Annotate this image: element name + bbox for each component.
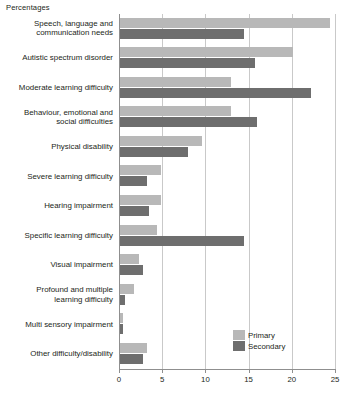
bar-primary [120,284,134,294]
bar-primary [120,136,202,146]
bar-group [119,225,335,247]
bar-secondary [120,265,143,275]
bar-group [119,343,335,365]
category-label-line: Profound and multiple [2,285,113,295]
bar-group [119,254,335,276]
gridline [335,14,336,369]
category-label: Speech, language andcommunication needs [2,19,113,38]
bar-secondary [120,29,244,39]
x-axis-tick-label: 20 [287,375,296,384]
plot-area: 0510152025 [119,14,335,369]
x-axis-tick-label: 0 [117,375,121,384]
bar-secondary [120,324,123,334]
x-axis-tick-label: 5 [160,375,164,384]
percentages-note: Percentages [6,3,50,12]
bar-secondary [120,206,149,216]
category-label-line: Speech, language and [2,19,113,29]
x-axis-line [119,369,335,370]
bar-secondary [120,147,188,157]
category-label: Physical disability [2,142,113,152]
category-label-line: social difficulties [2,117,113,127]
category-label-line: Autistic spectrum disorder [2,53,113,63]
category-label: Specific learning difficulty [2,231,113,241]
bar-secondary [120,117,257,127]
bar-group [119,195,335,217]
category-label-line: Moderate learning difficulty [2,83,113,93]
bar-group [119,165,335,187]
x-axis-tick-label: 10 [201,375,210,384]
category-label-line: communication needs [2,28,113,38]
bar-group [119,284,335,306]
bar-chart: Percentages 0510152025 Speech, language … [0,0,343,396]
category-label: Multi sensory impairment [2,320,113,330]
category-label: Profound and multiplelearning difficulty [2,285,113,304]
bar-primary [120,225,157,235]
category-label-line: learning difficulty [2,295,113,305]
x-axis-tick-label: 25 [331,375,340,384]
bar-group [119,77,335,99]
category-label-line: Behaviour, emotional and [2,108,113,118]
category-label: Other difficulty/disability [2,349,113,359]
bar-group [119,313,335,335]
bar-primary [120,77,231,87]
bar-primary [120,195,161,205]
bar-group [119,47,335,69]
category-label: Behaviour, emotional andsocial difficult… [2,108,113,127]
bar-primary [120,313,123,323]
category-label-line: Severe learning difficulty [2,172,113,182]
bar-secondary [120,58,255,68]
category-label-line: Visual impairment [2,260,113,270]
category-label-line: Specific learning difficulty [2,231,113,241]
bar-primary [120,254,139,264]
bar-secondary [120,88,311,98]
bar-primary [120,343,147,353]
category-label: Moderate learning difficulty [2,83,113,93]
bar-secondary [120,295,125,305]
x-axis-tick [335,369,336,373]
bar-group [119,106,335,128]
legend-label-secondary: Secondary [248,342,285,351]
category-label: Severe learning difficulty [2,172,113,182]
category-label-line: Other difficulty/disability [2,349,113,359]
bar-secondary [120,176,147,186]
category-label: Hearing impairment [2,201,113,211]
bar-primary [120,165,161,175]
legend-swatch-primary [233,330,245,340]
bar-secondary [120,354,143,364]
bar-primary [120,47,293,57]
x-axis-tick-label: 15 [244,375,253,384]
category-label-line: Hearing impairment [2,201,113,211]
legend-swatch-secondary [233,341,245,351]
category-label: Visual impairment [2,260,113,270]
bar-group [119,136,335,158]
bar-primary [120,18,330,28]
category-label-line: Multi sensory impairment [2,320,113,330]
category-label-line: Physical disability [2,142,113,152]
bar-primary [120,106,231,116]
bar-group [119,18,335,40]
legend-label-primary: Primary [248,331,275,340]
bar-secondary [120,236,244,246]
category-label: Autistic spectrum disorder [2,53,113,63]
